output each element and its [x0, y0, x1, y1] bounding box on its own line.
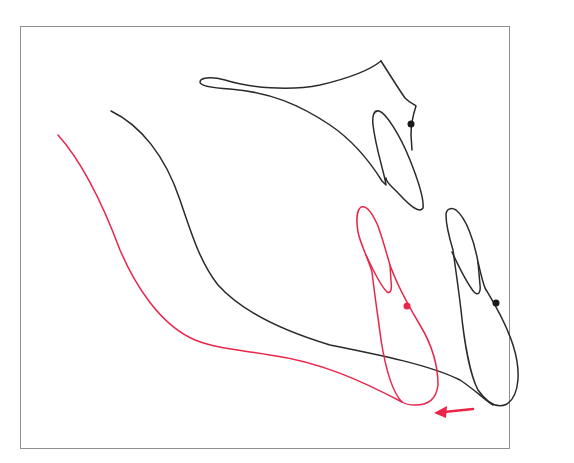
maxilla-outline [200, 61, 423, 210]
lower-incisor-shifted-landmark-dot [404, 303, 411, 310]
soft-tissue-profile-shifted [58, 135, 402, 402]
lower-incisor-original-landmark-dot [493, 300, 500, 307]
tracing-diagram [0, 0, 574, 463]
upper-incisor-landmark-dot [408, 121, 415, 128]
movement-arrow-icon [434, 406, 473, 418]
lower-incisor-shifted-crown [366, 255, 391, 292]
lower-incisor-original [446, 209, 518, 406]
lower-incisor-shifted [357, 207, 438, 405]
